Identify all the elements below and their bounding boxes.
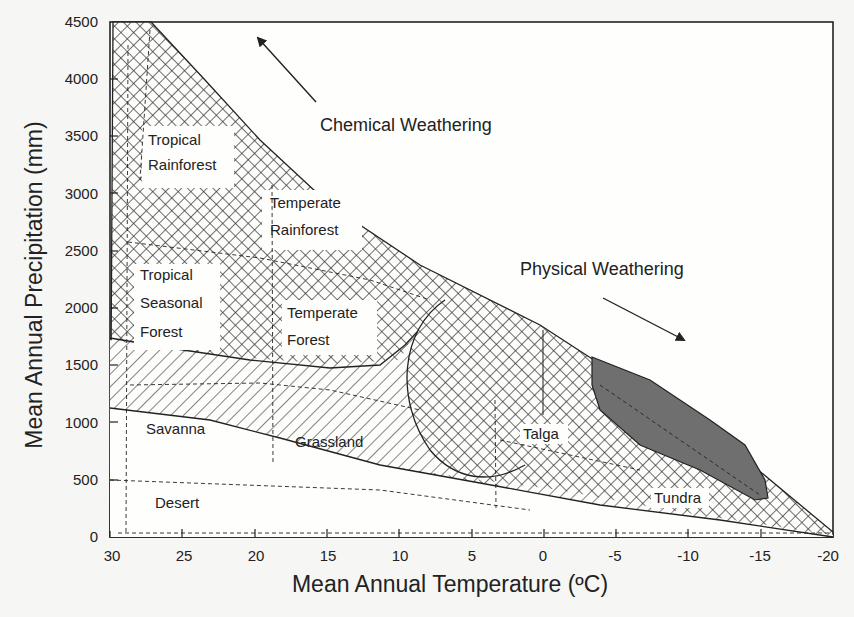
label-tundra: Tundra bbox=[654, 489, 702, 506]
svg-text:10: 10 bbox=[392, 547, 409, 564]
label-tropical-seasonal-1: Tropical bbox=[140, 266, 193, 283]
label-temperate-rainforest-1: Temperate bbox=[270, 194, 341, 211]
label-talga: Talga bbox=[523, 425, 560, 442]
label-tropical-rainforest-1: Tropical bbox=[148, 131, 201, 148]
svg-text:-5: -5 bbox=[608, 547, 621, 564]
svg-text:1500: 1500 bbox=[65, 356, 98, 373]
label-temperate-forest-2: Forest bbox=[287, 331, 330, 348]
svg-text:3500: 3500 bbox=[65, 127, 98, 144]
svg-text:20: 20 bbox=[248, 547, 265, 564]
svg-text:4000: 4000 bbox=[65, 70, 98, 87]
svg-text:4500: 4500 bbox=[65, 13, 98, 30]
x-axis-title: Mean Annual Temperature (ºC) bbox=[292, 571, 608, 597]
svg-text:0: 0 bbox=[90, 528, 98, 545]
label-grassland: Grassland bbox=[295, 433, 363, 450]
label-tropical-seasonal-2: Seasonal bbox=[140, 294, 203, 311]
label-temperate-rainforest-2: Rainforest bbox=[270, 221, 339, 238]
svg-text:3000: 3000 bbox=[65, 185, 98, 202]
label-tropical-rainforest-2: Rainforest bbox=[148, 156, 217, 173]
y-axis-title: Mean Annual Precipitation (mm) bbox=[21, 121, 47, 448]
svg-text:30: 30 bbox=[104, 547, 121, 564]
svg-text:500: 500 bbox=[73, 471, 98, 488]
svg-text:0: 0 bbox=[539, 547, 547, 564]
biome-weathering-chart: Tropical Rainforest Tropical Seasonal Fo… bbox=[0, 0, 854, 617]
svg-text:2000: 2000 bbox=[65, 299, 98, 316]
svg-text:2500: 2500 bbox=[65, 242, 98, 259]
physical-weathering-label: Physical Weathering bbox=[520, 259, 684, 279]
svg-text:15: 15 bbox=[320, 547, 337, 564]
label-temperate-forest-1: Temperate bbox=[287, 304, 358, 321]
svg-text:5: 5 bbox=[468, 547, 476, 564]
y-tick-labels: 0 500 1000 1500 2000 2500 3000 3500 4000… bbox=[65, 13, 98, 545]
label-tropical-seasonal-3: Forest bbox=[140, 323, 183, 340]
svg-text:1000: 1000 bbox=[65, 414, 98, 431]
svg-text:-10: -10 bbox=[677, 547, 699, 564]
svg-text:25: 25 bbox=[176, 547, 193, 564]
svg-text:-20: -20 bbox=[817, 547, 839, 564]
chemical-weathering-label: Chemical Weathering bbox=[320, 115, 492, 135]
svg-text:-15: -15 bbox=[749, 547, 771, 564]
label-desert: Desert bbox=[155, 494, 200, 511]
x-tick-labels: 30 25 20 15 10 5 0 -5 -10 -15 -20 bbox=[104, 547, 839, 564]
label-savanna: Savanna bbox=[146, 420, 206, 437]
